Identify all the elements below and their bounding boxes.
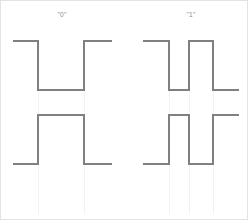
waveform-figure-canvas: "0""1" <box>0 0 248 220</box>
bit-label-left: "0" <box>58 11 67 18</box>
guide-lines-group <box>38 90 213 214</box>
waveform-trace-bit-0-top <box>13 41 112 90</box>
waveform-trace-bit-1-bottom <box>143 115 239 164</box>
waveform-traces-group <box>13 41 239 164</box>
waveform-trace-bit-0-bottom <box>13 115 112 164</box>
bit-labels-group: "0""1" <box>58 11 196 18</box>
waveform-diagram: "0""1" <box>1 1 248 220</box>
bit-label-right: "1" <box>187 11 196 18</box>
waveform-trace-bit-1-top <box>143 41 239 90</box>
